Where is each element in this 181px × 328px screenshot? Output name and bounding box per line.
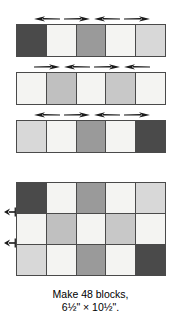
strip-row-2 (16, 60, 166, 105)
block-cell (106, 183, 135, 213)
quilt-block-piecing-diagram: Make 48 blocks, 6½" × 10½". (0, 0, 181, 328)
press-arrow-right-icon (64, 112, 90, 118)
strip-cell (47, 73, 76, 104)
strip-cell (17, 73, 46, 104)
strip-row-1 (16, 12, 166, 57)
block-cell (136, 214, 165, 244)
press-arrow-left-icon (64, 64, 90, 70)
strip-cell (106, 25, 135, 56)
press-arrow-left-icon (124, 64, 150, 70)
block-cell (77, 214, 106, 244)
block-cell (106, 245, 135, 275)
strip-cell (136, 121, 165, 152)
block-cell (47, 245, 76, 275)
figure-caption: Make 48 blocks, 6½" × 10½". (0, 288, 181, 314)
block-cell (47, 214, 76, 244)
block-cell (47, 183, 76, 213)
seam-press-arrow-icon-2 (4, 237, 17, 249)
strip-row-1-cells (16, 24, 166, 57)
press-arrow-left-icon (34, 16, 60, 22)
strip-cell (47, 121, 76, 152)
strip-cell (17, 25, 46, 56)
strip-cell (77, 73, 106, 104)
block-cell (17, 183, 46, 213)
press-arrow-band-row-1 (16, 12, 166, 24)
strip-cell (17, 121, 46, 152)
press-arrow-right-icon (124, 112, 150, 118)
block-cell (136, 245, 165, 275)
caption-line-2: 6½" × 10½". (0, 301, 181, 314)
block-cell (77, 245, 106, 275)
strip-cell (77, 121, 106, 152)
press-arrow-left-icon (94, 16, 120, 22)
block-cell (17, 214, 46, 244)
strip-cell (136, 73, 165, 104)
press-arrow-left-icon (94, 112, 120, 118)
block-cell (77, 183, 106, 213)
block-cell (17, 245, 46, 275)
seam-press-arrow-icon-1 (4, 206, 17, 218)
press-arrow-right-icon (64, 16, 90, 22)
strip-cell (106, 73, 135, 104)
assembled-block-grid (16, 182, 166, 276)
press-arrow-left-icon (34, 112, 60, 118)
strip-cell (47, 25, 76, 56)
block-cell (136, 183, 165, 213)
strip-row-3 (16, 108, 166, 153)
strip-cell (106, 121, 135, 152)
caption-line-1: Make 48 blocks, (0, 288, 181, 301)
press-arrow-band-row-2 (16, 60, 166, 72)
assembled-block-wrapper (16, 182, 166, 276)
press-arrow-right-icon (34, 64, 60, 70)
strip-cell (136, 25, 165, 56)
strip-row-2-cells (16, 72, 166, 105)
press-arrow-right-icon (124, 16, 150, 22)
strip-row-3-cells (16, 120, 166, 153)
block-cell (106, 214, 135, 244)
press-arrow-band-row-3 (16, 108, 166, 120)
strip-cell (77, 25, 106, 56)
press-arrow-right-icon (94, 64, 120, 70)
